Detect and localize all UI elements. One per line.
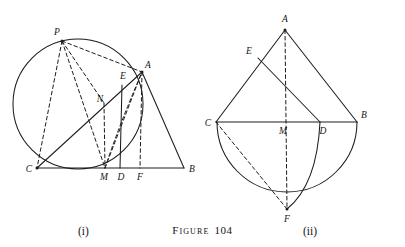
segment-a-b: [142, 72, 184, 168]
figure-104-root: P A E N C M D F B: [0, 0, 405, 247]
panel-two-dashed-a-f: [285, 30, 287, 209]
label-panel-one-n: N: [96, 94, 104, 104]
dashed-n-m: [104, 103, 105, 168]
figure-caption: Figure104: [0, 224, 405, 236]
figure-caption-number: 104: [214, 224, 232, 236]
panel-two-dashed-c-f: [216, 122, 287, 209]
label-panel-one-m: M: [99, 172, 109, 182]
vertex-c: [36, 167, 39, 170]
caption-layer: (i) Figure104 (ii): [0, 214, 405, 247]
label-panel-one-e: E: [119, 71, 126, 81]
sub-label-panel-two: (ii): [303, 225, 317, 237]
label-panel-two-c: C: [205, 118, 212, 128]
label-panel-one-c: C: [26, 164, 33, 174]
label-panel-two-e: E: [245, 46, 252, 56]
panel-two-segment-e-d: [258, 58, 320, 122]
panel-one-group: P A E N C M D F B: [13, 27, 195, 182]
vertex-a: [141, 71, 144, 74]
panel-two-vertex-f: [286, 208, 289, 211]
dashed-p-m: [62, 41, 105, 168]
label-panel-two-d: D: [318, 126, 326, 136]
label-panel-one-b: B: [189, 164, 195, 174]
panel-two-vertex-a: [284, 29, 287, 32]
label-panel-two-b: B: [361, 110, 367, 120]
panel-two-group: A E C M D B F: [205, 14, 367, 224]
vertex-p: [61, 40, 64, 43]
label-panel-two-a: A: [281, 14, 288, 24]
label-panel-one-d: D: [116, 172, 124, 182]
label-panel-one-p: P: [53, 27, 60, 37]
caption-row: (i) Figure104 (ii): [0, 214, 405, 247]
panel-two-arc-d-f: [287, 122, 320, 209]
label-panel-one-f: F: [136, 172, 143, 182]
label-panel-one-a: A: [144, 60, 151, 70]
dashed-m-a: [105, 72, 142, 168]
figure-drawing-canvas: P A E N C M D F B: [0, 0, 405, 247]
panel-two-segment-c-a: [216, 30, 285, 122]
dashed-p-a: [62, 41, 142, 72]
figure-caption-word: Figure: [172, 224, 209, 236]
label-panel-two-m: M: [278, 126, 288, 136]
panel-two-segment-a-b: [285, 30, 357, 122]
panel-one-circle: [13, 39, 143, 169]
